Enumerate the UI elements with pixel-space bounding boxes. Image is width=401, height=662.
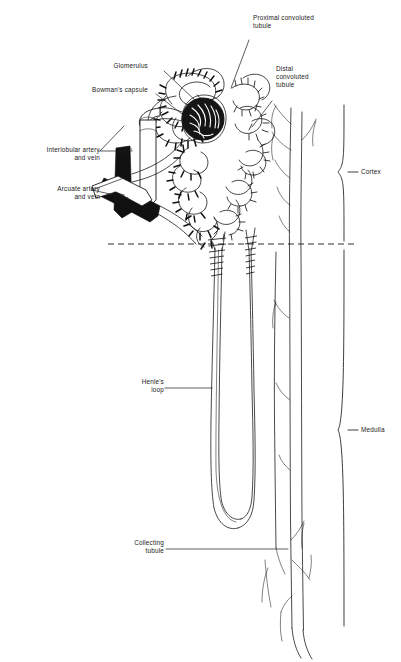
label-collecting-tubule: Collecting tubule xyxy=(106,539,164,555)
label-glomerulus: Glomerulus xyxy=(60,62,148,70)
medulla-bracket xyxy=(338,250,344,626)
label-bowmans-capsule: Bowman's capsule xyxy=(42,86,148,94)
label-medulla: Medulla xyxy=(361,426,401,434)
label-distal-convoluted-tubule: Distal convoluted tubule xyxy=(276,65,338,90)
label-interlobular-artery-and-vein: Interlobular artery and vein xyxy=(8,146,100,162)
leader-proximal xyxy=(231,40,249,88)
label-arcuate-artery-and-vein: Arcuate artery and vein xyxy=(8,185,100,201)
label-henles-loop: Henle's loop xyxy=(112,378,164,394)
glomerulus xyxy=(182,95,226,143)
henles-loop-structure xyxy=(211,248,255,529)
nephron-illustration: .s {fill:none;stroke:#1a1a1a;stroke-widt… xyxy=(0,0,401,662)
cortex-bracket xyxy=(338,105,344,241)
region-brackets xyxy=(338,105,358,626)
label-proximal-convoluted-tubule: Proximal convoluted tubule xyxy=(253,14,341,30)
convoluted-tubule-mass xyxy=(139,69,274,249)
collecting-tubule-structure xyxy=(262,104,316,659)
peritubular-capillary-network xyxy=(167,148,219,249)
label-cortex: Cortex xyxy=(361,168,397,176)
nephron-diagram-figure: .s {fill:none;stroke:#1a1a1a;stroke-widt… xyxy=(0,0,401,662)
distal-convoluted-tubule xyxy=(214,74,275,240)
